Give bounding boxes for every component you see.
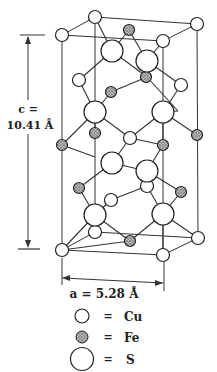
s-atom bbox=[152, 101, 174, 123]
a-label: a = 5.28 Å bbox=[70, 286, 140, 301]
s-atom bbox=[101, 40, 123, 62]
bond bbox=[62, 241, 130, 250]
fe-atom bbox=[125, 236, 136, 247]
c-arrowhead-down-icon bbox=[25, 240, 31, 248]
fe-atom bbox=[141, 72, 152, 83]
cu-atom bbox=[157, 249, 170, 262]
c-dimension: c = 10.41 Å bbox=[7, 35, 54, 249]
s-atom bbox=[152, 203, 174, 225]
a-dimension: a = 5.28 Å bbox=[62, 258, 164, 301]
crystal-structure-diagram: c = 10.41 Å a = 5.28 Å = Cu = Fe = S bbox=[0, 0, 217, 372]
fe-atom bbox=[192, 130, 203, 141]
legend-item-cu: = Cu bbox=[75, 309, 143, 324]
cu-atom bbox=[124, 132, 137, 145]
cu-atom bbox=[89, 11, 102, 24]
fe-atom bbox=[124, 25, 135, 36]
fe-atom bbox=[106, 87, 117, 98]
s-atom bbox=[136, 160, 158, 182]
c-value: 10.41 Å bbox=[7, 118, 54, 132]
s-atom bbox=[84, 101, 106, 123]
legend-eq: = bbox=[103, 353, 112, 366]
a-arrow bbox=[63, 278, 163, 283]
cu-atom-icon bbox=[75, 309, 89, 323]
fe-atom bbox=[158, 140, 169, 151]
a-arrowhead-left-icon bbox=[62, 275, 70, 281]
legend-item-fe: = Fe bbox=[76, 331, 140, 345]
c-arrowhead-up-icon bbox=[25, 36, 31, 44]
fe-atom bbox=[74, 183, 85, 194]
cu-atom bbox=[105, 194, 118, 207]
s-atom bbox=[136, 50, 158, 72]
a-arrowhead-right-icon bbox=[155, 280, 163, 286]
cu-atom bbox=[89, 226, 102, 239]
cell-edge bbox=[95, 17, 197, 24]
atoms bbox=[56, 11, 205, 262]
cu-atom bbox=[175, 79, 188, 92]
s-atom bbox=[101, 152, 123, 174]
fe-atom bbox=[57, 140, 68, 151]
legend-eq: = bbox=[103, 331, 112, 344]
cell-edge bbox=[95, 232, 198, 238]
legend-item-s: = S bbox=[71, 348, 135, 371]
legend-label-fe: Fe bbox=[124, 331, 140, 345]
cu-atom bbox=[157, 35, 170, 48]
cu-atom bbox=[56, 244, 69, 257]
fe-atom bbox=[90, 128, 101, 139]
s-atom-icon bbox=[71, 348, 94, 371]
fe-atom-icon bbox=[76, 331, 88, 343]
s-atom bbox=[84, 204, 106, 226]
legend-eq: = bbox=[103, 310, 112, 323]
cu-atom bbox=[73, 74, 86, 87]
legend-label-cu: Cu bbox=[124, 310, 143, 324]
legend: = Cu = Fe = S bbox=[71, 309, 143, 371]
fe-atom bbox=[176, 187, 187, 198]
cell-edge bbox=[62, 250, 163, 255]
c-label: c = bbox=[18, 103, 38, 116]
cu-atom bbox=[192, 232, 205, 245]
cu-atom bbox=[191, 18, 204, 31]
cu-atom bbox=[56, 29, 69, 42]
legend-label-s: S bbox=[126, 353, 135, 367]
